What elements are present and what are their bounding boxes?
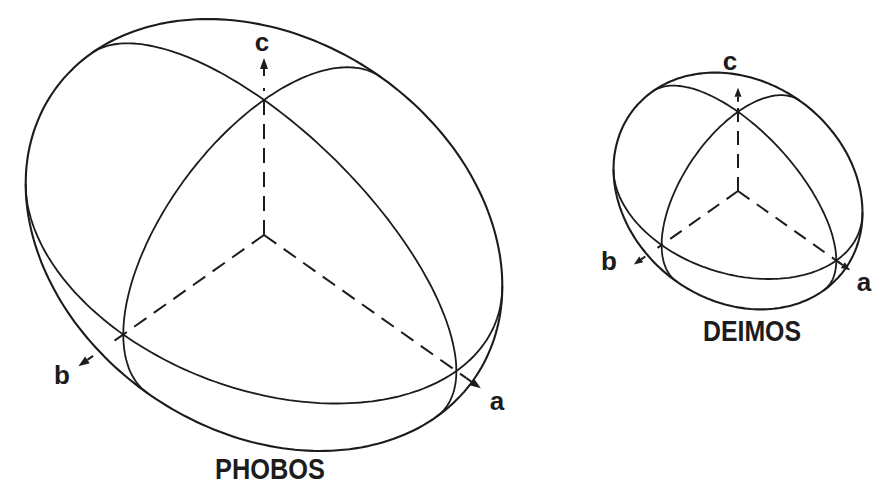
ac-section-curve: [92, 43, 457, 417]
c-axis-arrowhead: [260, 58, 268, 69]
phobos-c-axis-label: c: [255, 27, 269, 57]
b-axis-dashed-line: [658, 191, 739, 248]
a-axis-arrow-shaft: [466, 378, 472, 382]
deimos-b-axis-label: b: [601, 246, 617, 276]
a-axis-arrow-shaft: [839, 262, 843, 265]
mars-moons-ellipsoids-diagram: c b a PHOBOS c b a DEIMOS: [0, 0, 893, 492]
phobos-figure: c b a PHOBOS: [26, 19, 505, 485]
deimos-caption: DEIMOS: [703, 315, 801, 347]
c-axis-arrowhead: [735, 88, 742, 97]
deimos-c-axis-label: c: [723, 46, 737, 76]
phobos-caption: PHOBOS: [215, 453, 325, 485]
b-axis-arrow-shaft: [87, 356, 93, 360]
phobos-a-axis-label: a: [490, 386, 505, 416]
deimos-a-axis-label: a: [857, 267, 872, 297]
ac-section-curve: [653, 86, 837, 291]
phobos-ellipsoid-geometry: [26, 19, 503, 451]
b-axis-arrowhead: [78, 357, 89, 367]
b-axis-arrow-shaft: [641, 257, 645, 260]
phobos-b-axis-label: b: [54, 360, 70, 390]
a-axis-arrowhead: [470, 379, 481, 389]
a-axis-dashed-line: [738, 191, 840, 263]
deimos-figure: c b a DEIMOS: [601, 46, 872, 347]
figure-page: c b a PHOBOS c b a DEIMOS: [0, 0, 893, 492]
bc-section-curve: [662, 95, 800, 281]
bc-section-curve: [123, 67, 380, 393]
ab-equator-curve: [26, 184, 503, 404]
b-axis-dashed-line: [114, 235, 265, 341]
deimos-ellipsoid-geometry: [614, 73, 863, 310]
a-axis-dashed-line: [264, 235, 466, 378]
